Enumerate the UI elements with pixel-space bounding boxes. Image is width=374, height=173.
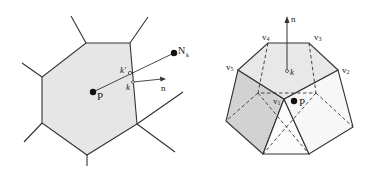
voronoi-cell [42,43,137,155]
point-k [132,81,135,84]
label-p-3d: P [299,96,305,108]
point-k-centroid [286,70,289,73]
arrowhead-icon [160,77,166,82]
label-v2: v2 [342,65,350,75]
edge-spoke [24,123,42,142]
label-v5: v5 [226,62,234,72]
point-p [90,89,96,95]
edge-spoke [130,17,148,43]
polyhedron-3d-figure [226,16,353,154]
label-v4: v4 [262,32,270,42]
diagram-canvas: P N k k′ k n n v4 v3 v2 v5 v1 k P [0,0,374,173]
label-normal-n: n [161,83,166,93]
point-p-3d [291,98,297,104]
edge-spoke [71,16,86,43]
label-k-prime: k′ [120,65,127,75]
label-v3: v3 [314,32,322,42]
point-k-prime [128,71,131,74]
label-p: P [97,90,103,102]
edge-spoke [137,92,183,124]
point-nk [171,50,177,56]
label-n: N [178,45,185,56]
arrowhead-icon [285,16,290,23]
label-n-3d: n [291,14,296,24]
normal-vector-n [133,79,162,82]
label-n-sub: k [186,52,189,58]
edge-spoke [137,124,175,152]
edge-spoke [22,63,42,77]
